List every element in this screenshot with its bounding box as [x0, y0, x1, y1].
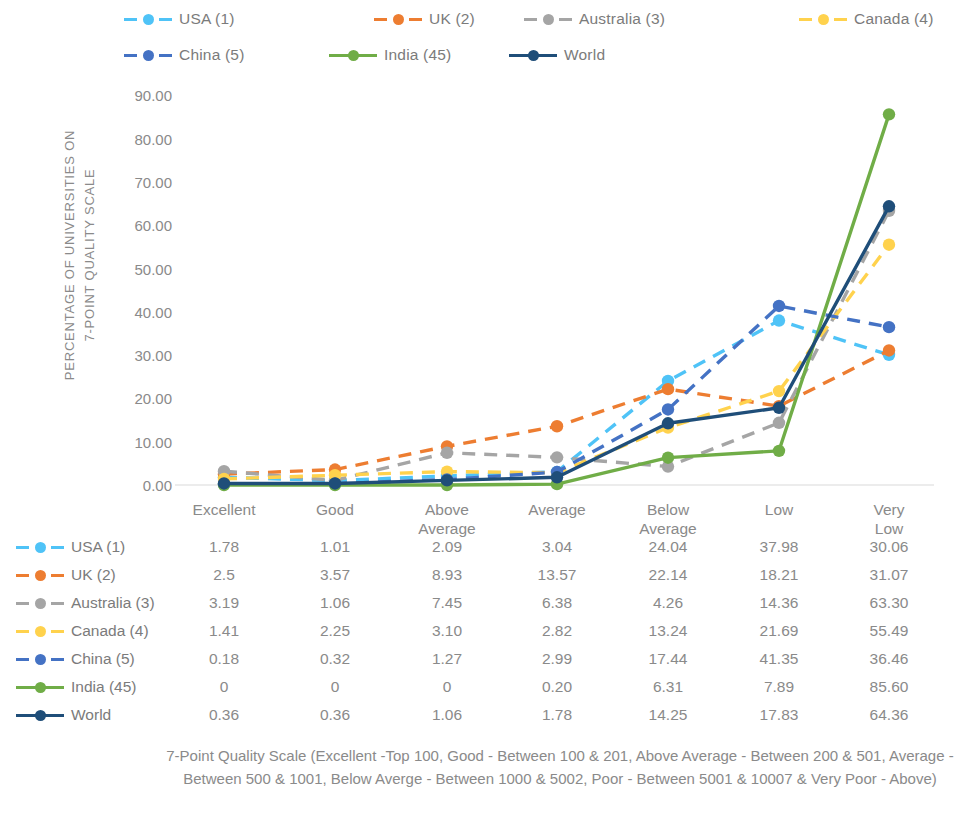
table-cell: 4.26: [608, 589, 728, 617]
table-cell: 3.10: [387, 617, 507, 645]
legend-item-label: India (45): [384, 46, 451, 64]
table-cell: 0: [275, 673, 395, 701]
table-cell: 1.01: [275, 533, 395, 561]
data-point[interactable]: World — Very Low: 64.36: [883, 200, 895, 212]
table-row: China (5)0.180.321.272.9917.4441.3536.46: [0, 645, 934, 673]
series-world: World — Excellent: 0.36World — Good: 0.3…: [218, 200, 895, 490]
series-line: [224, 245, 889, 479]
legend-item-label: World: [564, 46, 605, 64]
table-cell: 64.36: [829, 701, 949, 729]
legend-marker-icon: [524, 12, 572, 26]
legend-marker-icon: [16, 708, 64, 722]
data-point[interactable]: UK (2) — Very Low: 31.07: [883, 344, 895, 356]
table-row: UK (2)2.53.578.9313.5722.1418.2131.07: [0, 561, 934, 589]
table-cell: 7.45: [387, 589, 507, 617]
legend-item-world[interactable]: World: [509, 44, 605, 66]
data-point[interactable]: UK (2) — Below Average: 22.14: [662, 383, 674, 395]
data-point[interactable]: Canada (4) — Very Low: 55.49: [883, 239, 895, 251]
data-point[interactable]: China (5) — Below Average: 17.44: [662, 403, 674, 415]
table-cell: 6.38: [497, 589, 617, 617]
chart-data-table: USA (1)1.781.012.093.0424.0437.9830.06UK…: [0, 533, 934, 729]
table-cell: 1.41: [164, 617, 284, 645]
data-point[interactable]: Canada (4) — Low: 21.69: [773, 385, 785, 397]
table-row-legend: UK (2): [16, 561, 116, 589]
table-cell: 41.35: [719, 645, 839, 673]
table-cell: 6.31: [608, 673, 728, 701]
legend-item-label: Australia (3): [579, 10, 665, 28]
legend-marker-icon: [124, 48, 172, 62]
table-row-legend: Canada (4): [16, 617, 149, 645]
series-india-45: India (45) — Excellent: 0India (45) — Go…: [218, 108, 895, 491]
data-point[interactable]: World — Below Average: 14.25: [662, 417, 674, 429]
legend-marker-icon: [16, 624, 64, 638]
table-cell: 0: [164, 673, 284, 701]
table-row-label: UK (2): [71, 566, 116, 584]
x-tick-good: Good: [270, 500, 400, 519]
table-cell: 85.60: [829, 673, 949, 701]
table-row: India (45)0000.206.317.8985.60: [0, 673, 934, 701]
table-cell: 2.5: [164, 561, 284, 589]
table-cell: 36.46: [829, 645, 949, 673]
table-cell: 2.99: [497, 645, 617, 673]
table-cell: 37.98: [719, 533, 839, 561]
legend-marker-icon: [16, 540, 64, 554]
table-cell: 21.69: [719, 617, 839, 645]
chart-legend: USA (1)UK (2)Australia (3)Canada (4)Chin…: [124, 4, 934, 76]
table-cell: 0.32: [275, 645, 395, 673]
legend-item-australia-3[interactable]: Australia (3): [524, 8, 665, 30]
data-point[interactable]: World — Good: 0.36: [329, 477, 341, 489]
table-cell: 55.49: [829, 617, 949, 645]
table-row: Australia (3)3.191.067.456.384.2614.3663…: [0, 589, 934, 617]
data-point[interactable]: World — Low: 17.83: [773, 402, 785, 414]
chart-caption: 7-Point Quality Scale (Excellent -Top 10…: [165, 744, 955, 790]
table-cell: 1.06: [275, 589, 395, 617]
data-point[interactable]: UK (2) — Average: 13.57: [551, 420, 563, 432]
data-point[interactable]: India (45) — Below Average: 6.31: [662, 451, 674, 463]
table-cell: 14.36: [719, 589, 839, 617]
table-row-legend: Australia (3): [16, 589, 155, 617]
data-point[interactable]: Australia (3) — Low: 14.36: [773, 417, 785, 429]
data-point[interactable]: India (45) — Very Low: 85.60: [883, 108, 895, 120]
legend-item-india-45[interactable]: India (45): [329, 44, 451, 66]
table-cell: 22.14: [608, 561, 728, 589]
table-cell: 1.78: [497, 701, 617, 729]
table-cell: 0.20: [497, 673, 617, 701]
table-cell: 0.18: [164, 645, 284, 673]
legend-marker-icon: [374, 12, 422, 26]
legend-item-label: Canada (4): [854, 10, 934, 28]
data-point[interactable]: World — Excellent: 0.36: [218, 477, 230, 489]
table-cell: 2.09: [387, 533, 507, 561]
data-point[interactable]: USA (1) — Low: 37.98: [773, 314, 785, 326]
table-cell: 30.06: [829, 533, 949, 561]
legend-marker-icon: [16, 596, 64, 610]
data-point[interactable]: Australia (3) — Average: 6.38: [551, 451, 563, 463]
table-row-label: India (45): [71, 678, 136, 696]
table-cell: 1.06: [387, 701, 507, 729]
table-row-label: Canada (4): [71, 622, 149, 640]
table-cell: 3.57: [275, 561, 395, 589]
series-line: [224, 206, 889, 483]
plot-svg: USA (1) — Excellent: 1.78USA (1) — Good:…: [0, 80, 934, 500]
data-point[interactable]: Australia (3) — Above Average: 7.45: [441, 447, 453, 459]
legend-item-china-5[interactable]: China (5): [124, 44, 245, 66]
data-point[interactable]: India (45) — Low: 7.89: [773, 445, 785, 457]
data-point[interactable]: World — Average: 1.78: [551, 471, 563, 483]
table-cell: 13.57: [497, 561, 617, 589]
table-row-label: China (5): [71, 650, 135, 668]
table-cell: 8.93: [387, 561, 507, 589]
table-row-legend: China (5): [16, 645, 135, 673]
table-row: World0.360.361.061.7814.2517.8364.36: [0, 701, 934, 729]
legend-marker-icon: [16, 568, 64, 582]
legend-marker-icon: [799, 12, 847, 26]
legend-item-uk-2[interactable]: UK (2): [374, 8, 475, 30]
table-cell: 17.44: [608, 645, 728, 673]
table-cell: 0.36: [275, 701, 395, 729]
data-point[interactable]: World — Above Average: 1.06: [441, 474, 453, 486]
table-row-legend: India (45): [16, 673, 136, 701]
data-point[interactable]: China (5) — Low: 41.35: [773, 300, 785, 312]
legend-item-usa-1[interactable]: USA (1): [124, 8, 235, 30]
legend-item-canada-4[interactable]: Canada (4): [799, 8, 934, 30]
table-cell: 0: [387, 673, 507, 701]
data-point[interactable]: China (5) — Very Low: 36.46: [883, 321, 895, 333]
table-cell: 17.83: [719, 701, 839, 729]
